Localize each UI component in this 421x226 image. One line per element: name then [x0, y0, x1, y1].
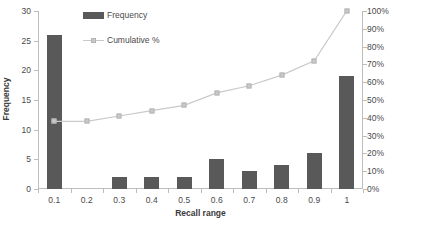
line-marker-swatch-icon [83, 37, 104, 44]
y-tick-label-left: 0 [7, 185, 31, 194]
y-tick-label-right: 80% [367, 43, 384, 52]
bar [177, 177, 192, 189]
bar-swatch-icon [83, 12, 104, 19]
y-tick-label-right: 90% [367, 25, 384, 34]
x-tick [136, 189, 137, 193]
y-tick-label-right: 0% [367, 185, 379, 194]
x-axis-title: Recall range [38, 208, 363, 218]
x-tick [233, 189, 234, 193]
bar [339, 76, 354, 189]
x-tick [331, 189, 332, 193]
y-tick-label-right: 20% [367, 149, 384, 158]
legend: Frequency Cumulative % [83, 8, 159, 58]
y-tick-label-left: 25 [7, 37, 31, 46]
x-tick [363, 189, 364, 193]
y-tick-label-right: 10% [367, 167, 384, 176]
bar [112, 177, 127, 189]
bar [274, 165, 289, 189]
bar [209, 159, 224, 189]
bar [242, 171, 257, 189]
legend-item-cumulative: Cumulative % [83, 33, 159, 47]
x-tick [103, 189, 104, 193]
bar [144, 177, 159, 189]
x-tick [266, 189, 267, 193]
legend-label-frequency: Frequency [107, 10, 147, 20]
y-axis-title: Frequency [1, 69, 11, 129]
y-tick-label-right: 30% [367, 132, 384, 141]
x-tick [168, 189, 169, 193]
x-tick [71, 189, 72, 193]
y-tick-label-left: 5 [7, 155, 31, 164]
legend-item-frequency: Frequency [83, 8, 159, 22]
y-tick-label-left: 30 [7, 7, 31, 16]
pareto-chart: 051015202530 0%10%20%30%40%50%60%70%80%9… [0, 0, 421, 226]
y-tick-label-right: 60% [367, 78, 384, 87]
legend-label-cumulative: Cumulative % [107, 35, 159, 45]
y-tick-label-right: 70% [367, 60, 384, 69]
y-tick-label-right: 50% [367, 96, 384, 105]
x-tick [38, 189, 39, 193]
bar [307, 153, 322, 189]
bar [47, 35, 62, 189]
x-tick-label: 1 [327, 196, 367, 205]
y-tick-label-right: 100% [367, 7, 389, 16]
x-tick [298, 189, 299, 193]
x-tick [201, 189, 202, 193]
y-tick-label-right: 40% [367, 114, 384, 123]
